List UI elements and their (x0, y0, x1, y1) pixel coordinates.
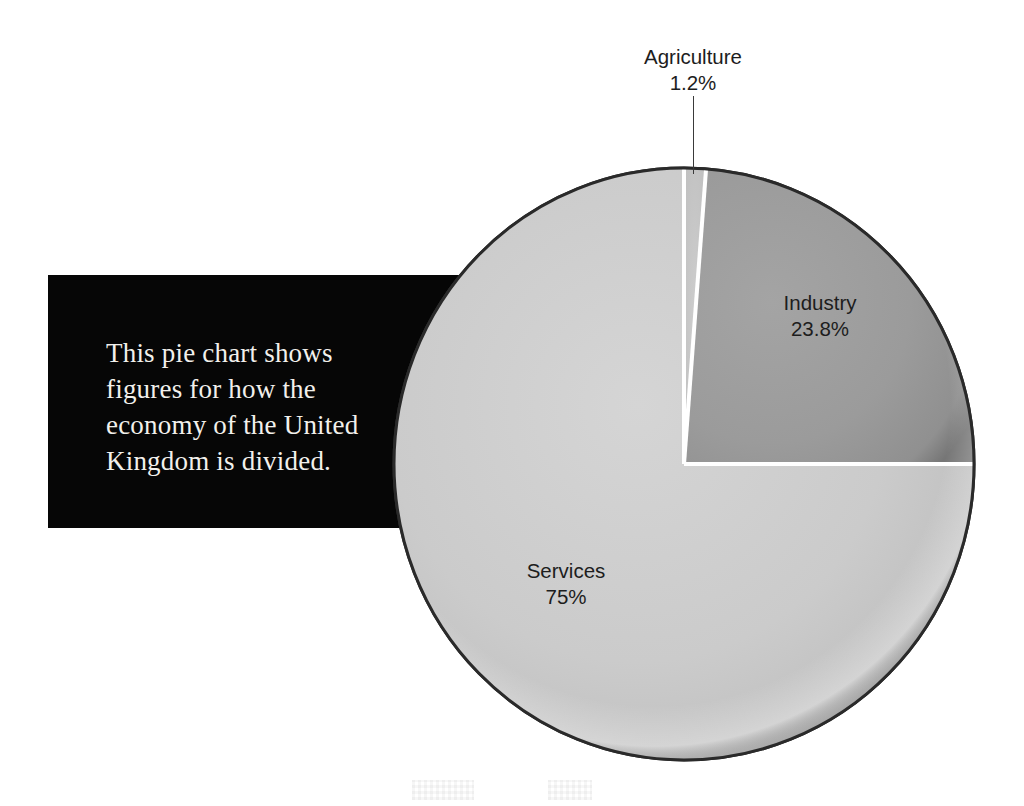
slice-label-industry-name: Industry (784, 290, 857, 316)
slice-label-services-name: Services (527, 558, 606, 584)
slice-label-agriculture-value: 1.2% (644, 70, 742, 96)
slice-label-services-value: 75% (527, 584, 606, 610)
slice-label-industry-value: 23.8% (784, 316, 857, 342)
slice-label-services: Services 75% (527, 558, 606, 610)
pie-graphic (392, 166, 976, 762)
slice-label-agriculture-name: Agriculture (644, 44, 742, 70)
slice-label-agriculture: Agriculture 1.2% (644, 44, 742, 96)
pie-svg (392, 166, 976, 762)
scan-artifact (548, 780, 592, 800)
scan-artifact (412, 780, 474, 800)
slice-label-industry: Industry 23.8% (784, 290, 857, 342)
agriculture-leader-line (693, 96, 694, 174)
caption-text: This pie chart shows figures for how the… (106, 335, 406, 479)
pie-rim-shading (394, 168, 974, 760)
pie-chart-figure: This pie chart shows figures for how the… (0, 0, 1024, 806)
